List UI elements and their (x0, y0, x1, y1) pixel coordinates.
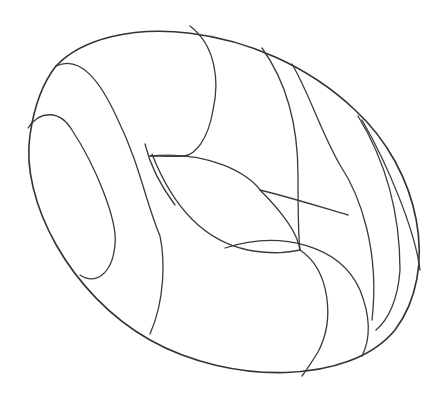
torus-drawing (0, 0, 448, 402)
torus-figure (0, 0, 448, 402)
seam-right-1-curve (358, 116, 400, 330)
seam-mid-curve (292, 64, 374, 320)
arc-lower-left-curve (260, 190, 348, 215)
seam-vertical-curve (262, 48, 300, 250)
lower-lobe-a-curve (300, 250, 328, 376)
lower-lobe-b-curve (225, 241, 369, 356)
hole-left-inner-curve (28, 115, 115, 279)
top-arc-left-curve (150, 26, 216, 156)
torus-outline (29, 31, 420, 372)
inner-stub-curve (145, 144, 175, 205)
hole-left-outer-curve (56, 63, 163, 334)
